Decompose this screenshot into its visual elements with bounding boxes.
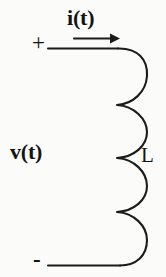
voltage-label: v(t) <box>10 141 42 163</box>
inductance-label: L <box>141 145 154 166</box>
current-arrow-icon <box>74 34 120 44</box>
inductor-diagram: + i(t) v(t) L - <box>0 0 166 277</box>
current-label: i(t) <box>67 7 94 29</box>
positive-terminal-sign: + <box>32 31 45 54</box>
negative-terminal-sign: - <box>33 248 41 271</box>
